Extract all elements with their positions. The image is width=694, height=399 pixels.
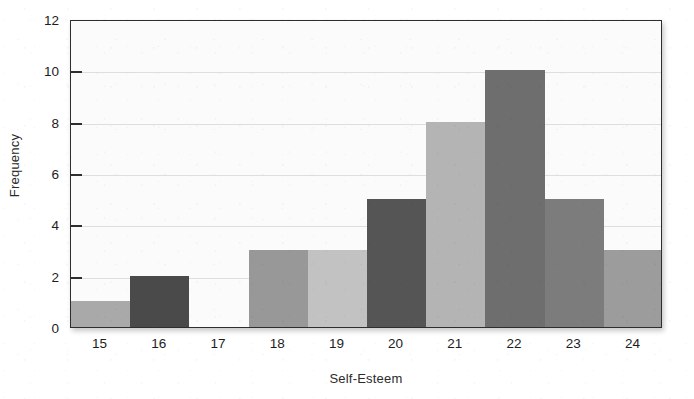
x-tick-label: 20 (366, 336, 425, 351)
y-tick-label: 10 (44, 64, 59, 79)
histogram-figure: Frequency 024681012 15161718192021222324… (0, 0, 694, 399)
bar (367, 199, 426, 327)
bar (485, 70, 544, 327)
plot-inner (71, 21, 661, 327)
y-tick-label: 12 (44, 13, 59, 28)
x-tick-label: 16 (129, 336, 188, 351)
x-axis-tick-labels: 15161718192021222324 (70, 336, 662, 356)
y-tick-label: 4 (51, 218, 59, 233)
bar (308, 250, 367, 327)
x-tick-label: 15 (70, 336, 129, 351)
x-tick-label: 21 (425, 336, 484, 351)
x-tick-label: 22 (484, 336, 543, 351)
x-tick-label: 23 (544, 336, 603, 351)
bar (545, 199, 604, 327)
bar (426, 122, 485, 327)
x-tick-label: 18 (248, 336, 307, 351)
x-tick-label: 24 (603, 336, 662, 351)
y-tick-label: 8 (51, 115, 59, 130)
x-tick-label: 17 (188, 336, 247, 351)
bar (604, 250, 662, 327)
x-axis-title: Self-Esteem (70, 371, 662, 386)
bar (71, 301, 130, 327)
y-tick-label: 2 (51, 269, 59, 284)
plot-area (70, 20, 662, 328)
y-tick-label: 6 (51, 167, 59, 182)
bars-group (71, 21, 661, 327)
bar (130, 276, 189, 327)
y-axis-tick-labels: 024681012 (0, 0, 70, 399)
y-tick-label: 0 (51, 321, 59, 336)
x-tick-label: 19 (307, 336, 366, 351)
bar (249, 250, 308, 327)
